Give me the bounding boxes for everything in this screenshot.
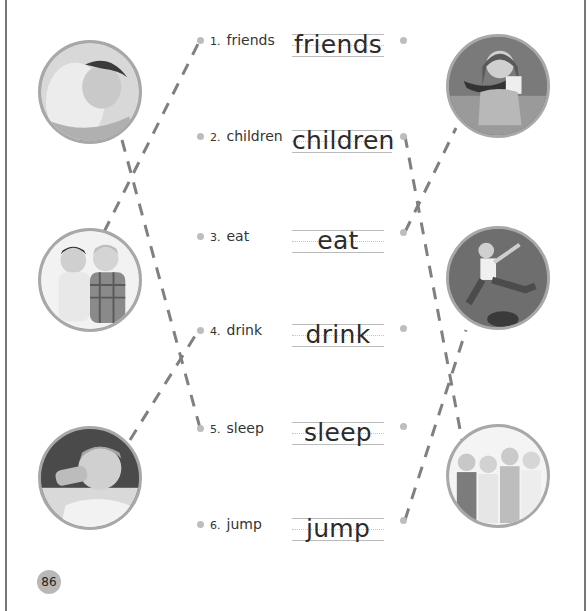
right-match-dot[interactable] [400,325,407,332]
page-number-badge: 86 [37,570,61,594]
word-text: friends [227,32,275,48]
left-match-dot[interactable] [197,425,204,432]
word-row-5: 5.sleep sleep [0,418,588,458]
tracing-guide: jump [292,518,384,548]
word-row-4: 4.drink drink [0,320,588,360]
word-number: 1. [210,35,221,48]
word-label: 4.drink [210,322,262,338]
word-number: 4. [210,325,221,338]
right-match-dot[interactable] [400,37,407,44]
trace-word: friends [292,30,384,59]
tracing-guide: eat [292,230,384,260]
tracing-guide: drink [292,324,384,354]
right-match-dot[interactable] [400,517,407,524]
trace-word: sleep [292,418,384,447]
word-number: 5. [210,423,221,436]
word-text: children [227,128,283,144]
word-text: sleep [227,420,264,436]
tracing-guide: sleep [292,422,384,452]
word-row-6: 6.jump jump [0,514,588,554]
trace-word: jump [292,514,384,543]
word-row-3: 3.eat eat [0,226,588,266]
tracing-guide: children [292,130,392,160]
word-text: drink [227,322,263,338]
tracing-guide: friends [292,34,384,64]
word-text: jump [227,516,262,532]
left-match-dot[interactable] [197,133,204,140]
left-match-dot[interactable] [197,521,204,528]
right-match-dot[interactable] [400,229,407,236]
trace-word: children [292,126,392,155]
trace-word: eat [292,226,384,255]
word-row-2: 2.children children [0,126,588,166]
right-match-dot[interactable] [400,133,407,140]
word-label: 6.jump [210,516,262,532]
trace-word: drink [292,320,384,349]
word-label: 3.eat [210,228,249,244]
word-label: 5.sleep [210,420,264,436]
left-match-dot[interactable] [197,233,204,240]
left-match-dot[interactable] [197,37,204,44]
right-match-dot[interactable] [400,423,407,430]
word-number: 2. [210,131,221,144]
word-row-1: 1.friends friends [0,30,588,70]
word-label: 2.children [210,128,283,144]
word-number: 6. [210,519,221,532]
word-text: eat [227,228,250,244]
word-number: 3. [210,231,221,244]
word-label: 1.friends [210,32,275,48]
left-match-dot[interactable] [197,327,204,334]
